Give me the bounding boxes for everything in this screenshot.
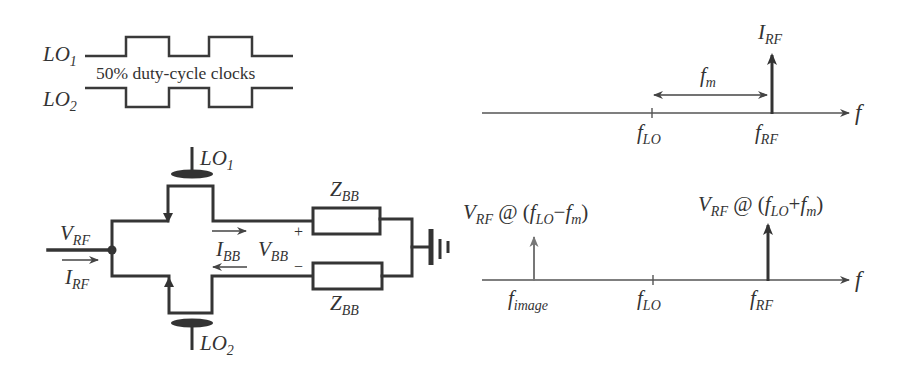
bottom-switch-arrow-icon xyxy=(164,277,174,287)
f-lo-label-bottom: fLO xyxy=(637,286,661,313)
mixer-circuit: LO1 LO2 VRF IRF IBB VBB + − ZBB ZBB xyxy=(48,146,448,358)
ground-icon xyxy=(431,229,448,265)
f-image-label: fimage xyxy=(508,286,548,313)
z-bb-top-resistor xyxy=(313,208,380,234)
axis-label-f-bottom: f xyxy=(855,267,865,292)
axis-label-f: f xyxy=(855,100,865,125)
f-lo-label: fLO xyxy=(637,120,661,147)
lo2-waveform xyxy=(85,88,293,107)
i-bb-label: IBB xyxy=(215,237,241,264)
f-rf-label-bottom: fRF xyxy=(750,286,773,313)
resistor-join-wire xyxy=(380,219,412,276)
lo1-gate-icon xyxy=(171,170,213,179)
i-rf-label: IRF xyxy=(64,265,90,292)
lo1-waveform xyxy=(85,37,293,56)
v-bb-label: VBB xyxy=(258,237,288,264)
z-bb-bottom-resistor xyxy=(313,263,382,289)
f-rf-label: fRF xyxy=(755,120,778,147)
rf-input-spectrum: f fLO IRF fm fRF xyxy=(482,20,865,147)
z-bb-bottom-label: ZBB xyxy=(330,291,359,318)
v-rf-label: VRF xyxy=(60,221,90,248)
clock-waveforms: LO1 50% duty-cycle clocks LO2 xyxy=(42,37,293,114)
lo1-gate-label: LO1 xyxy=(199,146,234,173)
plus-sign: + xyxy=(294,223,303,240)
f-m-label: fm xyxy=(700,63,716,90)
top-switch-path xyxy=(112,186,313,250)
lo1-clock-label: LO1 xyxy=(42,42,77,69)
image-spike-label: VRF @ (fLO−fm) xyxy=(463,200,588,227)
minus-sign: − xyxy=(294,258,303,275)
clock-caption: 50% duty-cycle clocks xyxy=(96,63,256,83)
lo2-gate-label: LO2 xyxy=(199,331,234,358)
passive-mixer-diagram: LO1 50% duty-cycle clocks LO2 LO1 LO2 VR… xyxy=(0,0,909,375)
lo2-clock-label: LO2 xyxy=(42,87,77,114)
z-bb-top-label: ZBB xyxy=(330,177,359,204)
rf-voltage-spectrum: f VRF @ (fLO−fm) VRF @ (fLO+fm) fimage f… xyxy=(463,192,865,313)
rf-spike-label: VRF @ (fLO+fm) xyxy=(698,192,823,219)
i-rf-spike-label: IRF xyxy=(757,20,783,47)
